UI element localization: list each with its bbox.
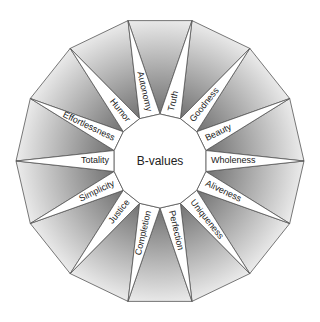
b-values-wheel-diagram: B-values WholenessBeautyGoodnessTruthAut… xyxy=(0,0,320,322)
center-label: B-values xyxy=(137,154,184,168)
label-wholeness: Wholeness xyxy=(211,155,256,165)
label-totality: Totality xyxy=(81,155,110,165)
